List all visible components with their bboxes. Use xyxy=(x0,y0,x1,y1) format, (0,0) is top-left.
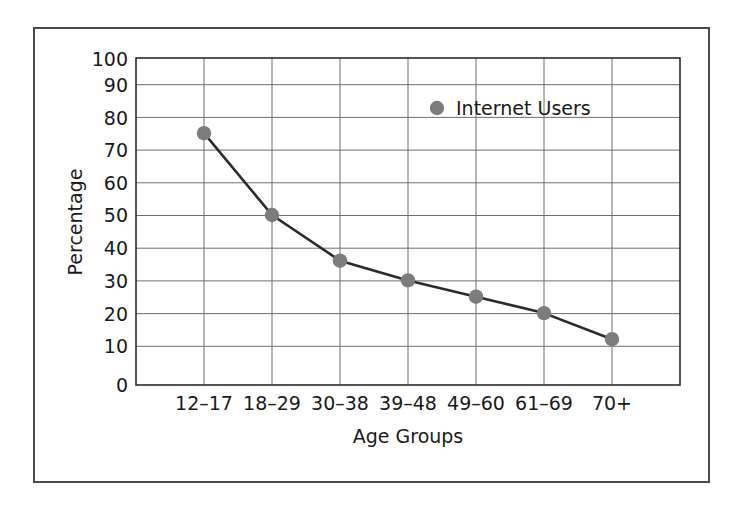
data-point xyxy=(197,126,211,140)
x-tick-label: 12–17 xyxy=(175,392,233,414)
legend-label: Internet Users xyxy=(456,97,591,119)
data-point xyxy=(333,254,347,268)
x-axis-tick-labels: 12–17 18–29 30–38 39–48 49–60 61–69 70+ xyxy=(175,392,632,414)
y-tick-label: 50 xyxy=(104,204,128,226)
y-tick-label: 10 xyxy=(104,335,128,357)
data-point xyxy=(537,306,551,320)
legend-marker-icon xyxy=(430,101,444,115)
x-axis-title: Age Groups xyxy=(353,425,464,447)
data-point xyxy=(469,290,483,304)
y-tick-label: 100 xyxy=(92,48,128,70)
y-tick-label: 80 xyxy=(104,107,128,129)
x-tick-label: 49–60 xyxy=(447,392,505,414)
y-axis-tick-labels: 100 90 80 70 60 50 40 30 20 10 0 xyxy=(92,48,128,396)
y-tick-label: 40 xyxy=(104,237,128,259)
y-tick-label: 20 xyxy=(104,303,128,325)
x-tick-label: 18–29 xyxy=(243,392,301,414)
line-chart: 100 90 80 70 60 50 40 30 20 10 0 Percent… xyxy=(0,0,741,505)
y-tick-label: 60 xyxy=(104,172,128,194)
y-tick-label: 30 xyxy=(104,270,128,292)
figure-container: 100 90 80 70 60 50 40 30 20 10 0 Percent… xyxy=(0,0,741,505)
data-point xyxy=(401,273,415,287)
x-tick-label: 70+ xyxy=(592,392,632,414)
data-point xyxy=(265,208,279,222)
x-tick-label: 61–69 xyxy=(515,392,573,414)
x-tick-label: 39–48 xyxy=(379,392,437,414)
data-point xyxy=(605,332,619,346)
y-tick-label: 90 xyxy=(104,74,128,96)
y-axis-title: Percentage xyxy=(64,169,86,276)
x-tick-label: 30–38 xyxy=(311,392,369,414)
y-tick-label: 70 xyxy=(104,139,128,161)
y-tick-label: 0 xyxy=(116,374,128,396)
